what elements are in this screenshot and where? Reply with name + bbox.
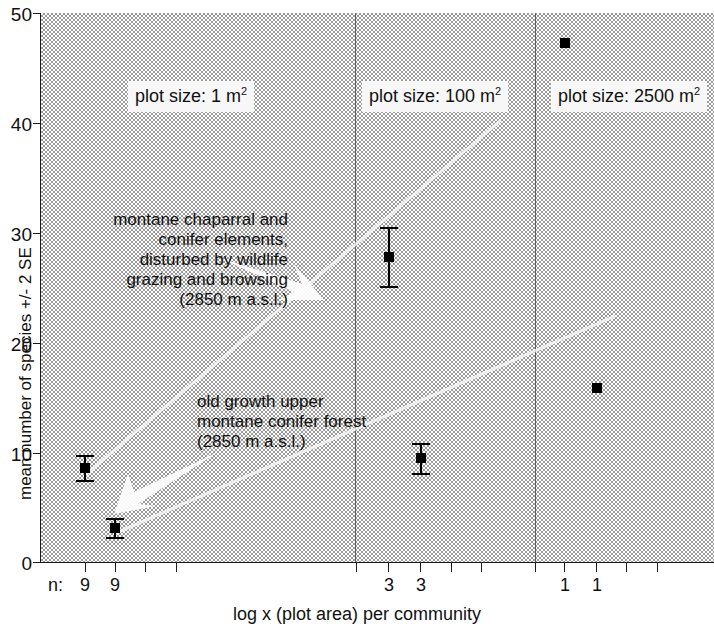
x-axis-title: log x (plot area) per community [0,604,714,625]
data-point [110,523,120,533]
x-tick [176,563,177,572]
x-tick [481,563,482,572]
n-value: 1 [587,575,607,596]
panel-label-3-sup: 2 [694,85,700,97]
y-tick-label-40: 40 [0,114,32,136]
errorbar-cap-top [106,518,124,520]
x-tick [535,563,536,572]
data-point [384,252,394,262]
n-value: 3 [411,575,431,596]
n-value: 9 [75,575,95,596]
errorbar-cap-top [412,443,430,445]
y-tick-label-0: 0 [0,553,32,575]
n-row-label: n: [48,575,63,596]
x-tick [451,563,452,572]
n-value: 9 [105,575,125,596]
panel-label-2-text: plot size: 100 m [369,86,495,106]
x-tick [596,563,597,572]
annotation-oldgrowth: old growth upper montane conifer forest … [197,392,417,452]
data-point [416,453,426,463]
n-value: 1 [555,575,575,596]
y-tick-label-30: 30 [0,224,32,246]
annotation-chaparral: montane chaparral and conifer elements, … [56,210,288,310]
panel-label-1-text: plot size: 1 m [135,86,241,106]
errorbar-cap-bottom [412,473,430,475]
x-axis-line [40,562,714,563]
y-tick-label-50: 50 [0,4,32,26]
panel-label-2: plot size: 100 m2 [362,81,508,112]
n-value: 3 [379,575,399,596]
panel-label-2-sup: 2 [495,85,501,97]
y-axis-title: mean number of species +/- 2 SE [16,247,36,500]
data-point [560,38,570,48]
panel-label-1: plot size: 1 m2 [128,81,254,112]
x-tick [657,563,658,572]
y-tick-30 [33,233,41,234]
species-area-chart: 50 40 30 20 10 0 plot size: 1 m2 plot si… [0,0,714,635]
x-tick [626,563,627,572]
x-tick [356,563,357,572]
x-tick [85,563,86,572]
data-point [80,463,90,473]
x-tick [420,563,421,572]
x-tick [564,563,565,572]
panel-label-3-text: plot size: 2500 m [558,86,694,106]
y-tick-50 [33,13,41,14]
panel-label-3: plot size: 2500 m2 [551,81,707,112]
data-point [592,383,602,393]
x-tick [145,563,146,572]
errorbar-cap-bottom [380,286,398,288]
x-tick [115,563,116,572]
x-tick [388,563,389,572]
errorbar-cap-bottom [106,537,124,539]
panel-label-1-sup: 2 [241,85,247,97]
y-tick-0 [33,562,41,563]
panel-divider-2 [535,13,536,562]
panel-divider-1 [355,13,356,562]
y-axis-line [40,13,41,563]
errorbar-cap-bottom [76,480,94,482]
errorbar-cap-top [76,455,94,457]
y-tick-40 [33,123,41,124]
errorbar-cap-top [380,227,398,229]
